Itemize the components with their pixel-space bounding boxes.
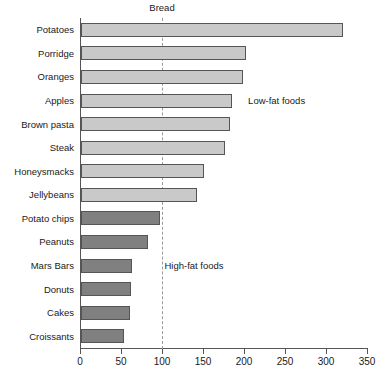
- bar-cakes: [81, 306, 130, 320]
- category-label-steak: Steak: [0, 142, 74, 153]
- bar-peanuts: [81, 235, 148, 249]
- bar-row: Potato chips: [0, 207, 390, 231]
- bar-row: Potatoes: [0, 18, 390, 42]
- bar-honeysmacks: [81, 164, 204, 178]
- category-label-oranges: Oranges: [0, 71, 74, 82]
- category-label-jellybeans: Jellybeans: [0, 189, 74, 200]
- x-tick: [244, 349, 245, 354]
- category-label-cakes: Cakes: [0, 307, 74, 318]
- category-label-donuts: Donuts: [0, 284, 74, 295]
- bar-apples: [81, 94, 232, 108]
- bar-rows: PotatoesPorridgeOrangesApplesBrown pasta…: [0, 18, 390, 348]
- bar-row: Honeysmacks: [0, 159, 390, 183]
- x-tick: [162, 349, 163, 354]
- category-label-croissants: Croissants: [0, 331, 74, 342]
- x-tick: [121, 349, 122, 354]
- x-tick-label-0: 0: [77, 356, 83, 367]
- bar-porridge: [81, 46, 246, 60]
- bar-row: Oranges: [0, 65, 390, 89]
- category-label-mars-bars: Mars Bars: [0, 260, 74, 271]
- category-label-potatoes: Potatoes: [0, 24, 74, 35]
- bar-row: Brown pasta: [0, 112, 390, 136]
- x-tick-label-300: 300: [318, 356, 335, 367]
- x-tick: [326, 349, 327, 354]
- bar-row: Donuts: [0, 277, 390, 301]
- category-label-potato-chips: Potato chips: [0, 213, 74, 224]
- bar-row: Steak: [0, 136, 390, 160]
- bar-steak: [81, 141, 225, 155]
- x-tick: [285, 349, 286, 354]
- bar-row: Cakes: [0, 301, 390, 325]
- bar-croissants: [81, 329, 124, 343]
- x-tick-label-150: 150: [195, 356, 212, 367]
- x-tick-label-200: 200: [236, 356, 253, 367]
- category-label-apples: Apples: [0, 95, 74, 106]
- bar-potato-chips: [81, 211, 160, 225]
- x-tick: [367, 349, 368, 354]
- annotation-low-fat-foods: Low-fat foods: [248, 95, 305, 106]
- bar-row: Jellybeans: [0, 183, 390, 207]
- bar-brown-pasta: [81, 117, 230, 131]
- bread-reference-label: Bread: [149, 2, 174, 13]
- x-axis-line: [80, 348, 368, 349]
- bar-potatoes: [81, 23, 343, 37]
- annotation-high-fat-foods: High-fat foods: [164, 260, 223, 271]
- bar-jellybeans: [81, 188, 197, 202]
- x-tick-label-250: 250: [277, 356, 294, 367]
- x-tick: [203, 349, 204, 354]
- bar-oranges: [81, 70, 243, 84]
- bar-row: Apples: [0, 89, 390, 113]
- x-tick-label-50: 50: [115, 356, 126, 367]
- bar-row: Porridge: [0, 42, 390, 66]
- category-label-peanuts: Peanuts: [0, 236, 74, 247]
- x-tick-label-350: 350: [359, 356, 376, 367]
- category-label-porridge: Porridge: [0, 48, 74, 59]
- bar-row: Peanuts: [0, 230, 390, 254]
- category-label-brown-pasta: Brown pasta: [0, 119, 74, 130]
- bar-chart: Bread PotatoesPorridgeOrangesApplesBrown…: [0, 0, 390, 380]
- category-label-honeysmacks: Honeysmacks: [0, 166, 74, 177]
- bar-donuts: [81, 282, 131, 296]
- bar-row: Croissants: [0, 324, 390, 348]
- x-tick: [80, 349, 81, 354]
- bar-mars-bars: [81, 259, 132, 273]
- x-tick-label-100: 100: [154, 356, 171, 367]
